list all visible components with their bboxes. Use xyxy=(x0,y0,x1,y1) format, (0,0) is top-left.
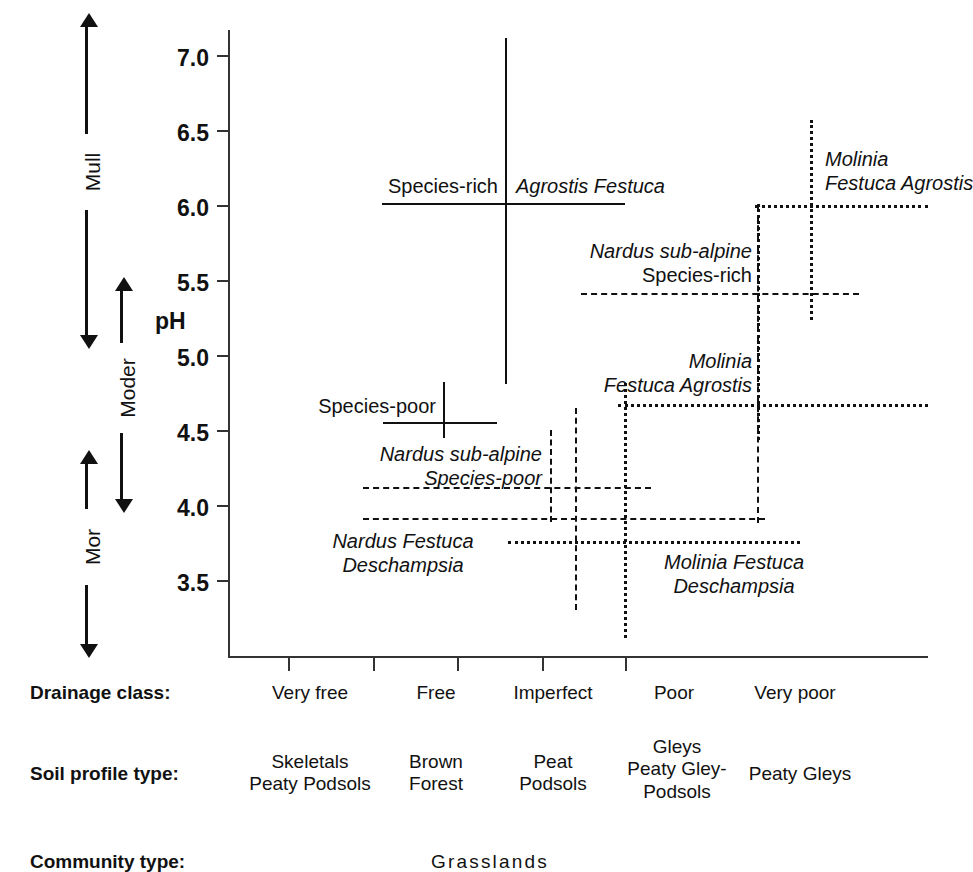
soil-cell-skeletals: Skeletals Peaty Podsols xyxy=(249,751,370,796)
x-axis xyxy=(228,656,928,658)
row-header-community-type: Community type: xyxy=(30,851,185,872)
y-tick-5.0: 5.0 xyxy=(217,355,228,357)
cross-mean-bar xyxy=(382,203,625,205)
cross-range-bar xyxy=(810,120,813,320)
soil-cell-gleys: Gleys Peaty Gley- Podsols xyxy=(627,736,726,803)
cross-mean-bar xyxy=(508,541,800,544)
cross-range-bar xyxy=(505,38,507,384)
x-tick-very-poor xyxy=(625,658,627,671)
cross-range-bar xyxy=(757,204,760,440)
arrow-head-down-icon xyxy=(115,499,133,513)
cross-mean-bar xyxy=(383,422,497,424)
arrow-head-up-icon xyxy=(80,450,98,464)
humus-type-axis: Mull Moder Mor xyxy=(0,0,165,680)
cross-range-bar xyxy=(443,382,445,438)
y-tick-label: 4.0 xyxy=(177,495,209,522)
cross-mean-bar xyxy=(755,205,928,208)
cross-label-line1: Nardus sub-alpine xyxy=(558,240,752,263)
mor-arrow: Mor xyxy=(85,463,88,645)
soil-cell-peat-podsols: Peat Podsols xyxy=(519,751,587,796)
y-axis xyxy=(228,30,230,658)
y-tick-label: 5.5 xyxy=(177,270,209,297)
y-tick-label: 3.5 xyxy=(177,570,209,597)
y-tick-4.5: 4.5 xyxy=(217,430,228,432)
chart-plot-area: 7.0 6.5 6.0 5.5 5.0 4.5 4.0 3.5 Species-… xyxy=(228,30,928,658)
soil-cell-line: Brown Forest xyxy=(409,751,463,796)
cross-label-line2: Festuca Agrostis xyxy=(825,172,973,195)
drainage-cell-imperfect: Imperfect xyxy=(513,682,592,704)
cross-mean-bar xyxy=(363,518,765,520)
cross-label-line2: Deschampsia xyxy=(634,575,834,598)
y-tick-5.5: 5.5 xyxy=(217,280,228,282)
cross-label-line2: Deschampsia xyxy=(308,554,498,577)
cross-range-bar xyxy=(575,408,577,610)
mor-label: Mor xyxy=(79,509,107,585)
mull-label: Mull xyxy=(79,134,107,210)
cross-label-line1: Molinia Festuca xyxy=(634,551,834,574)
y-axis-title: pH xyxy=(155,308,186,335)
y-tick-6.5: 6.5 xyxy=(217,130,228,132)
y-tick-7.0: 7.0 xyxy=(217,55,228,57)
cross-label-left: Species-rich xyxy=(328,175,498,198)
soil-cell-line: Skeletals Peaty Podsols xyxy=(249,751,370,796)
x-tick-very-free xyxy=(288,658,290,671)
community-type-value: Grasslands xyxy=(431,851,549,872)
x-tick-poor xyxy=(542,658,544,671)
soil-cell-brown-forest: Brown Forest xyxy=(409,751,463,796)
cross-label-right: Agrostis Festuca xyxy=(516,175,665,198)
cross-label-left: Species-poor xyxy=(268,395,436,418)
cross-label-line2: Species-rich xyxy=(558,264,752,287)
cross-range-bar xyxy=(550,430,552,522)
row-header-drainage-class: Drainage class: xyxy=(30,682,170,704)
y-tick-label: 7.0 xyxy=(177,45,209,72)
soil-cell-line: Peaty Gleys xyxy=(749,763,851,785)
arrow-head-down-icon xyxy=(80,335,98,349)
moder-arrow: Moder xyxy=(120,290,123,500)
cross-label-right-line1: Nardus sub-alpine xyxy=(348,443,542,466)
soil-cell-peaty-gleys: Peaty Gleys xyxy=(749,763,851,785)
cross-mean-bar xyxy=(618,404,928,407)
y-tick-4.0: 4.0 xyxy=(217,505,228,507)
cross-label-line1: Molinia xyxy=(558,350,752,373)
cross-label-line1: Molinia xyxy=(825,148,888,171)
y-tick-label: 4.5 xyxy=(177,420,209,447)
arrow-head-up-icon xyxy=(80,13,98,27)
moder-label: Moder xyxy=(114,343,142,433)
x-tick-free xyxy=(373,658,375,671)
arrow-head-down-icon xyxy=(80,644,98,658)
y-tick-label: 6.5 xyxy=(177,120,209,147)
mull-arrow: Mull xyxy=(85,26,88,336)
cross-label-line2: Festuca Agrostis xyxy=(558,374,752,397)
drainage-cell-free: Free xyxy=(416,682,455,704)
drainage-cell-poor: Poor xyxy=(654,682,694,704)
cross-label-line1: Nardus Festuca xyxy=(308,530,498,553)
row-header-soil-profile-type: Soil profile type: xyxy=(30,763,179,785)
x-tick-imperfect xyxy=(457,658,459,671)
y-tick-label: 6.0 xyxy=(177,195,209,222)
soil-cell-line: Gleys Peaty Gley- Podsols xyxy=(627,736,726,803)
soil-cell-line: Peat Podsols xyxy=(519,751,587,796)
drainage-cell-very-poor: Very poor xyxy=(754,682,835,704)
cross-mean-bar xyxy=(581,293,859,295)
arrow-head-up-icon xyxy=(115,277,133,291)
y-tick-label: 5.0 xyxy=(177,345,209,372)
drainage-cell-very-free: Very free xyxy=(272,682,348,704)
y-tick-6.0: 6.0 xyxy=(217,205,228,207)
y-tick-3.5: 3.5 xyxy=(217,580,228,582)
cross-mean-bar xyxy=(363,487,651,489)
cross-range-bar xyxy=(624,383,627,638)
